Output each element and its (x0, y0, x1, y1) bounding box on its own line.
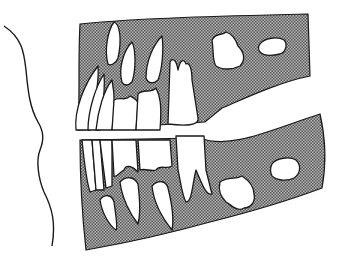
upper-primary-molar (112, 96, 138, 130)
lower-third-molar-crypt (271, 158, 300, 180)
soft-tissue-profile (4, 26, 54, 246)
upper-primary-molar (136, 88, 161, 130)
lower-primary-molar (138, 140, 172, 171)
dental-illustration (0, 0, 338, 264)
